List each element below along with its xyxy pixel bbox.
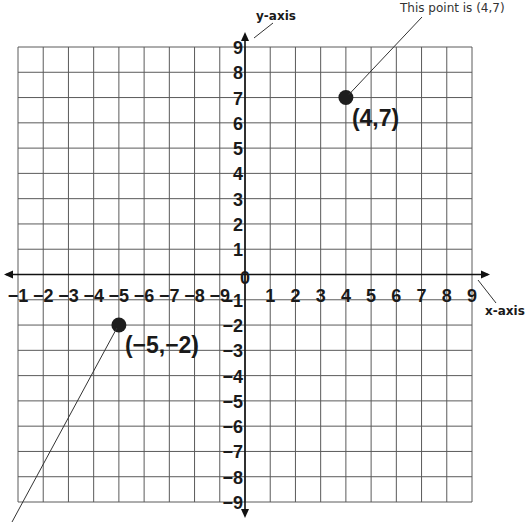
x-tick-label: 8 [442,286,452,306]
x-tick-label: −2 [33,286,54,306]
y-axis-title: y-axis [256,9,296,23]
y-tick-label: −5 [222,392,243,412]
y-tick-label: −3 [222,341,243,361]
y-tick-label: −8 [222,468,243,488]
x-axis-leader [478,280,496,303]
y-tick-label: −2 [222,316,243,336]
arrow-right-icon [481,271,490,279]
y-tick-label: −9 [222,493,243,513]
x-tick-label: −8 [184,286,205,306]
y-tick-label: −1 [222,291,243,311]
x-tick-label: 7 [417,286,427,306]
y-tick-label: 7 [233,89,243,109]
annotation-leader [349,17,422,95]
x-tick-label: −6 [134,286,155,306]
point-annotation: This point is (4,7) [399,1,505,15]
y-tick-label: 1 [233,240,243,260]
y-tick-label: 4 [233,164,243,184]
x-tick-label: −3 [58,286,79,306]
x-tick-label: 5 [366,286,376,306]
points: (4,7)(−5,−2) [12,17,422,522]
x-tick-label: −7 [159,286,180,306]
x-tick-label: −5 [109,286,130,306]
point-label: (4,7) [352,105,399,131]
x-tick-label: 2 [290,286,300,306]
y-tick-label: −7 [222,442,243,462]
origin-label: 0 [240,268,250,288]
x-tick-label: −1 [8,286,29,306]
x-tick-label: 6 [391,286,401,306]
y-tick-label: 6 [233,114,243,134]
x-tick-label: 3 [316,286,326,306]
x-axis-title: x-axis [485,304,525,318]
y-tick-label: −4 [222,367,243,387]
coordinate-plane: −1−2−3−4−5−6−7−8−91234567890987654321−1−… [0,0,531,525]
y-tick-label: 2 [233,215,243,235]
y-tick-label: 5 [233,139,243,159]
tick-labels: −1−2−3−4−5−6−7−8−91234567890987654321−1−… [8,38,477,513]
y-tick-label: 3 [233,190,243,210]
arrow-left-icon [4,271,13,279]
point-leader [12,328,117,522]
data-point [111,318,126,333]
y-axis-leader [254,23,273,38]
y-tick-label: −6 [222,417,243,437]
x-tick-label: 4 [341,286,351,306]
x-tick-label: 9 [467,286,477,306]
x-tick-label: −4 [83,286,104,306]
y-tick-label: 9 [233,38,243,58]
y-tick-label: 8 [233,63,243,83]
point-label: (−5,−2) [125,332,199,358]
x-tick-label: 1 [265,286,275,306]
